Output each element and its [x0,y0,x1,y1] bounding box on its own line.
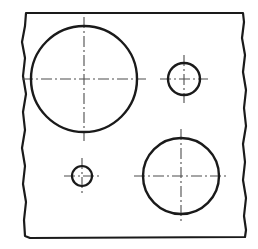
canvas-background [0,0,258,249]
technical-drawing [0,0,258,249]
drawing-canvas [0,0,258,249]
